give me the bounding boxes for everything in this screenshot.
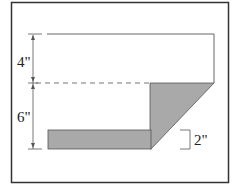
- arrow-down-middle-icon: [31, 77, 35, 82]
- label-top-height: 4": [17, 54, 31, 70]
- shaded-bottom-bar: [48, 130, 151, 149]
- label-bar-thickness: 2": [194, 132, 208, 148]
- thickness-bracket: [180, 130, 190, 149]
- arrow-down-bottom-icon: [31, 143, 35, 148]
- label-bottom-height: 6": [17, 109, 31, 125]
- arrow-up-top-icon: [31, 35, 35, 40]
- diagram-canvas: 4" 6" 2": [0, 0, 238, 185]
- arrow-up-middle-icon: [31, 84, 35, 89]
